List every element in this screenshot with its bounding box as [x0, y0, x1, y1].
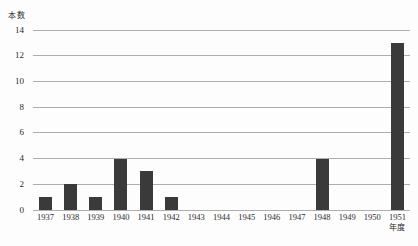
gridline-12	[33, 55, 410, 56]
bar-1941	[140, 171, 153, 210]
y-tick-label-0: 0	[0, 206, 24, 215]
bar-1948	[316, 159, 329, 210]
bar-chart: 本数 02468101214 1937193819391940194119421…	[0, 0, 418, 246]
bar-1937	[39, 197, 52, 210]
y-tick-label-8: 8	[0, 103, 24, 112]
y-tick-label-6: 6	[0, 128, 24, 137]
bar-1951	[391, 43, 404, 210]
y-axis-tick-labels: 02468101214	[0, 30, 24, 210]
bar-1938	[64, 184, 77, 210]
bar-1939	[89, 197, 102, 210]
x-tick-label-1940: 1940	[108, 212, 133, 222]
plot-area	[33, 30, 410, 210]
y-tick-label-14: 14	[0, 26, 24, 35]
gridline-8	[33, 107, 410, 108]
gridline-6	[33, 132, 410, 133]
y-axis-unit-label: 本数	[8, 9, 26, 20]
x-tick-label-1939: 1939	[83, 212, 108, 222]
bar-1940	[114, 159, 127, 210]
x-tick-label-1938: 1938	[58, 212, 83, 222]
x-tick-label-1950: 1950	[360, 212, 385, 222]
y-tick-label-12: 12	[0, 51, 24, 60]
x-tick-label-1949: 1949	[335, 212, 360, 222]
x-tick-label-1942: 1942	[159, 212, 184, 222]
x-tick-label-1946: 1946	[259, 212, 284, 222]
x-tick-label-1944: 1944	[209, 212, 234, 222]
y-tick-label-10: 10	[0, 77, 24, 86]
x-axis-unit-label: 年度	[385, 223, 410, 233]
x-tick-label-1951: 1951	[385, 212, 410, 222]
x-tick-label-1941: 1941	[134, 212, 159, 222]
gridline-10	[33, 81, 410, 82]
x-tick-label-1943: 1943	[184, 212, 209, 222]
x-tick-label-1947: 1947	[284, 212, 309, 222]
gridline-4	[33, 158, 410, 159]
x-tick-label-1937: 1937	[33, 212, 58, 222]
x-tick-label-1945: 1945	[234, 212, 259, 222]
x-axis-tick-labels: 1937193819391940194119421943194419451946…	[33, 212, 410, 246]
gridline-14	[33, 30, 410, 31]
x-tick-label-1948: 1948	[309, 212, 334, 222]
gridline-2	[33, 184, 410, 185]
y-tick-label-2: 2	[0, 180, 24, 189]
y-tick-label-4: 4	[0, 154, 24, 163]
bar-1942	[165, 197, 178, 210]
